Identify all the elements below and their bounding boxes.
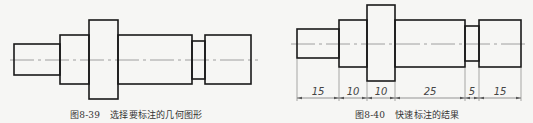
dimension-value: 25	[424, 86, 437, 97]
shaft-segment	[118, 35, 192, 84]
caption-figure-8-40: 图8-40快速标注的结果	[355, 108, 460, 121]
dimension-value: 10	[375, 86, 388, 97]
shaft-segment	[14, 44, 60, 75]
dimension-value: 15	[312, 86, 325, 97]
shaft-segment	[60, 35, 89, 84]
dimension-value: 5	[469, 86, 475, 97]
drawing-canvas: 15101025515	[0, 0, 533, 123]
shaft-segment	[297, 29, 339, 58]
caption-text: 选择要标注的几何图形	[110, 110, 202, 120]
shaft-segment	[395, 20, 465, 67]
shaft-segment	[367, 5, 395, 81]
dimension-value: 10	[347, 86, 360, 97]
caption-text: 快速标注的结果	[395, 110, 459, 120]
caption-figure-8-39: 图8-39选择要标注的几何图形	[70, 108, 202, 121]
shaft-segment	[89, 20, 118, 99]
dimension-chain: 15101025515	[297, 59, 521, 101]
shaft-drawing-left	[10, 20, 258, 99]
shaft-segment	[205, 35, 251, 84]
shaft-segment	[479, 20, 521, 67]
shaft-segment	[465, 26, 479, 61]
shaft-segment	[339, 20, 367, 67]
shaft-drawing-right: 15101025515	[291, 5, 528, 101]
dimension-value: 15	[494, 86, 507, 97]
caption-number: 图8-40	[355, 110, 385, 120]
caption-number: 图8-39	[70, 110, 100, 120]
